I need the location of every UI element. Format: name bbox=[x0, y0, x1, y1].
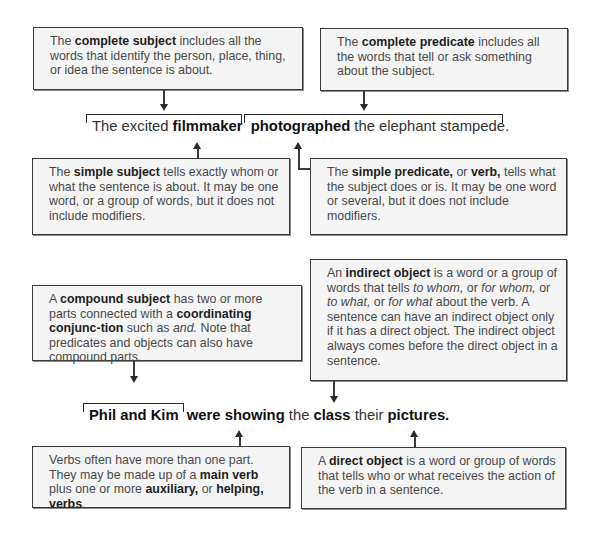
arrow-down-icon bbox=[330, 396, 338, 403]
box-text: and. bbox=[173, 321, 197, 335]
connector-line bbox=[414, 436, 416, 447]
box-text: The bbox=[50, 34, 75, 48]
sentence-word: the elephant stampede. bbox=[350, 118, 509, 134]
direct-object-word: pictures. bbox=[388, 407, 450, 423]
box-text: or bbox=[198, 482, 216, 496]
box-text: for what bbox=[388, 295, 432, 309]
box-text: or bbox=[453, 165, 471, 179]
simple-subject-word: filmmaker bbox=[173, 118, 243, 134]
arrow-down-icon bbox=[160, 104, 168, 111]
sentence-word: their bbox=[351, 407, 388, 423]
box-text: or bbox=[370, 295, 388, 309]
verbs-box: Verbs often have more than one part. The… bbox=[32, 446, 290, 508]
arrow-down-icon bbox=[130, 376, 138, 383]
simple-subject-box: The simple subject tells exactly whom or… bbox=[32, 158, 290, 235]
indirect-object-word: class bbox=[314, 407, 351, 423]
box-text: or bbox=[463, 281, 481, 295]
box-text: such as bbox=[123, 321, 173, 335]
term-auxiliary: auxiliary, bbox=[145, 482, 198, 496]
term-complete-predicate: complete predicate bbox=[362, 35, 475, 49]
box-text: plus one or more bbox=[49, 482, 145, 496]
connector-line bbox=[197, 148, 199, 158]
indirect-object-box: An indirect object is a word or a group … bbox=[310, 259, 567, 381]
connector-line bbox=[239, 436, 241, 446]
compound-subject-words: Phil and Kim bbox=[89, 407, 179, 423]
connector-line bbox=[298, 148, 300, 168]
term-simple-predicate: simple predicate, bbox=[352, 165, 453, 179]
box-text: A bbox=[49, 292, 60, 306]
term-simple-subject: simple subject bbox=[74, 165, 160, 179]
box-text: to whom, bbox=[413, 281, 463, 295]
box-text: . bbox=[82, 497, 85, 511]
complete-predicate-box: The complete predicate includes all the … bbox=[320, 28, 568, 91]
example-sentence-2: Phil and Kim were showing the class thei… bbox=[89, 407, 449, 423]
box-text: The bbox=[49, 165, 74, 179]
box-text: to what, bbox=[327, 295, 370, 309]
term-main-verb: main verb bbox=[200, 468, 259, 482]
box-text: for whom, bbox=[481, 281, 535, 295]
box-text: A bbox=[318, 454, 329, 468]
term-indirect-object: indirect object bbox=[346, 266, 431, 280]
term-verb: verb, bbox=[471, 165, 501, 179]
simple-predicate-word: photographed bbox=[251, 118, 350, 134]
example-sentence-1: The excited filmmaker photographed the e… bbox=[92, 118, 509, 134]
simple-predicate-box: The simple predicate, or verb, tells wha… bbox=[310, 158, 567, 235]
arrow-down-icon bbox=[360, 104, 368, 111]
box-text: The bbox=[337, 35, 362, 49]
complete-subject-box: The complete subject includes all the wo… bbox=[33, 27, 303, 90]
box-text: The bbox=[327, 165, 352, 179]
verb-phrase-words: were showing bbox=[187, 407, 285, 423]
term-complete-subject: complete subject bbox=[75, 34, 176, 48]
sentence-word: The excited bbox=[92, 118, 173, 134]
term-compound-subject: compound subject bbox=[60, 292, 170, 306]
box-text: or bbox=[536, 281, 550, 295]
box-text: An bbox=[327, 266, 346, 280]
sentence-word: the bbox=[285, 407, 314, 423]
term-direct-object: direct object bbox=[329, 454, 403, 468]
connector-line bbox=[298, 168, 310, 170]
compound-subject-box: A compound subject has two or more parts… bbox=[32, 285, 302, 361]
direct-object-box: A direct object is a word or group of wo… bbox=[301, 447, 566, 509]
